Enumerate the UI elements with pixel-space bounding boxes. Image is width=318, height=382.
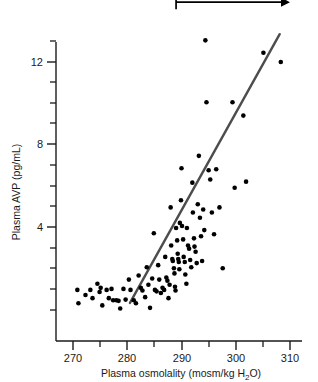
data-point: [190, 180, 195, 185]
data-point: [181, 255, 186, 260]
data-point: [202, 228, 207, 233]
data-point: [123, 297, 128, 302]
x-tick-label-280: 280: [118, 352, 136, 364]
data-point: [150, 276, 155, 281]
data-point: [173, 288, 178, 293]
x-tick-label-290: 290: [173, 352, 191, 364]
data-point: [83, 293, 88, 298]
data-point: [148, 306, 153, 311]
data-point: [88, 288, 93, 293]
thirst-arrow-head: [281, 0, 290, 7]
data-point: [162, 288, 167, 293]
data-point: [217, 205, 222, 210]
data-point: [169, 243, 174, 248]
data-point: [230, 100, 235, 105]
data-point: [104, 288, 109, 293]
data-point: [194, 261, 199, 266]
data-point: [203, 38, 208, 43]
data-point: [175, 252, 180, 257]
data-point: [156, 263, 161, 268]
data-point: [167, 282, 172, 287]
y-axis-ticks: 12 8 4: [31, 41, 56, 310]
data-point: [199, 234, 204, 239]
data-point: [201, 207, 206, 212]
data-point: [261, 50, 266, 55]
data-point: [128, 288, 133, 293]
data-point: [75, 288, 80, 293]
scatter-plot: Thirst 12 8 4: [0, 0, 318, 382]
x-tick-label-300: 300: [227, 352, 245, 364]
data-point: [127, 277, 132, 282]
data-point: [174, 226, 179, 231]
data-point: [179, 166, 184, 171]
data-point: [144, 265, 149, 270]
data-point: [180, 224, 185, 229]
thirst-annotation: Thirst: [176, 0, 290, 9]
data-point: [191, 210, 196, 215]
data-point: [166, 296, 171, 301]
data-point: [179, 198, 184, 203]
data-point: [193, 249, 198, 254]
data-point: [198, 215, 203, 220]
data-point: [177, 267, 182, 272]
data-point: [175, 238, 180, 243]
data-point: [232, 186, 237, 191]
data-point: [171, 259, 176, 264]
data-point: [197, 154, 202, 159]
data-point: [116, 299, 121, 304]
data-point: [189, 265, 194, 270]
data-point: [136, 273, 141, 278]
scatter-point-group: [75, 38, 283, 311]
data-point: [182, 260, 187, 265]
data-point: [163, 255, 168, 260]
data-point: [76, 301, 81, 306]
y-axis-title: Plasma AVP (pg/mL): [10, 144, 22, 240]
data-point: [241, 113, 246, 118]
data-point: [95, 281, 100, 286]
data-point: [90, 296, 95, 301]
data-point: [212, 232, 217, 237]
data-point: [172, 266, 177, 271]
data-point: [100, 303, 105, 308]
data-point: [118, 306, 123, 311]
data-point: [210, 210, 215, 215]
data-point: [97, 290, 102, 295]
x-axis-title: Plasma osmolality (mosm/kg H2O): [101, 367, 261, 382]
data-point: [140, 288, 145, 293]
data-point: [146, 282, 151, 287]
data-point: [220, 266, 225, 271]
data-point: [157, 277, 162, 282]
data-point: [181, 237, 186, 242]
y-tick-label-8: 8: [37, 138, 43, 150]
data-point: [192, 236, 197, 241]
y-tick-label-12: 12: [31, 56, 43, 68]
data-point: [187, 246, 192, 251]
data-point: [206, 168, 211, 173]
data-point: [154, 289, 159, 294]
data-point: [152, 231, 157, 236]
data-point: [278, 60, 283, 65]
data-point: [134, 301, 139, 306]
data-point: [200, 259, 205, 264]
data-point: [214, 167, 219, 172]
regression-line: [130, 34, 280, 303]
y-tick-label-4: 4: [37, 221, 43, 233]
data-point: [121, 287, 126, 292]
data-point: [192, 244, 197, 249]
data-point: [168, 205, 173, 210]
data-point: [183, 272, 188, 277]
data-point: [188, 258, 193, 263]
data-point: [185, 226, 190, 231]
data-point: [109, 287, 114, 292]
data-point: [172, 271, 177, 276]
figure-container: Thirst 12 8 4: [0, 0, 318, 382]
x-tick-label-310: 310: [281, 352, 299, 364]
data-point: [208, 177, 213, 182]
data-point: [98, 286, 103, 291]
data-point: [176, 260, 181, 265]
data-point: [184, 281, 189, 286]
data-point: [244, 179, 249, 184]
data-point: [195, 202, 200, 207]
data-point: [165, 278, 170, 283]
data-point: [107, 296, 112, 301]
